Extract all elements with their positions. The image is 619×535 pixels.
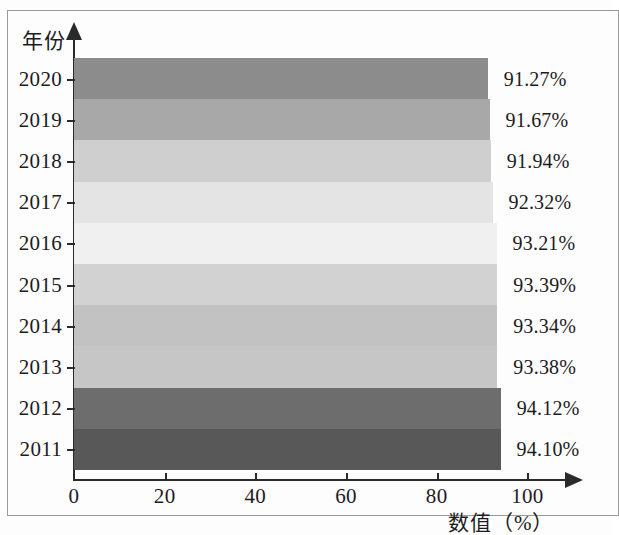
x-axis-tick-label-20: 20 <box>154 484 176 509</box>
y-axis-tick-label-2018: 2018 <box>0 149 62 174</box>
bar-value-label-2016: 93.21% <box>513 232 576 255</box>
x-axis-tick <box>346 473 348 480</box>
x-axis-line <box>73 479 567 481</box>
y-axis-tick-label-2011: 2011 <box>0 437 62 462</box>
x-axis-tick-label-40: 40 <box>245 484 267 509</box>
bar-2012 <box>74 388 501 429</box>
bar-row: 93.39% <box>74 264 550 305</box>
x-axis-tick-label-0: 0 <box>69 484 80 509</box>
x-axis-tick <box>437 473 439 480</box>
bar-2020 <box>74 58 488 99</box>
bar-row: 93.38% <box>74 346 550 387</box>
bar-row: 91.67% <box>74 99 550 140</box>
bar-value-label-2019: 91.67% <box>506 108 569 131</box>
y-axis-tick <box>67 161 75 163</box>
y-axis-tick <box>67 79 75 81</box>
bar-row: 94.12% <box>74 388 550 429</box>
bar-row: 91.94% <box>74 140 550 181</box>
bar-2011 <box>74 429 501 470</box>
y-axis-tick <box>67 449 75 451</box>
bar-value-label-2011: 94.10% <box>517 438 580 461</box>
y-axis-tick-label-2013: 2013 <box>0 355 62 380</box>
y-axis-tick <box>67 408 75 410</box>
bar-row: 92.32% <box>74 182 550 223</box>
y-axis-arrow-icon <box>66 22 82 40</box>
bar-value-label-2015: 93.39% <box>513 273 576 296</box>
y-axis-tick <box>67 243 75 245</box>
y-axis-tick-label-2015: 2015 <box>0 272 62 297</box>
y-axis-tick <box>67 285 75 287</box>
bar-row: 93.21% <box>74 223 550 264</box>
bar-value-label-2014: 93.34% <box>513 314 576 337</box>
y-axis-tick-label-2012: 2012 <box>0 396 62 421</box>
y-axis-tick-label-2014: 2014 <box>0 313 62 338</box>
bar-2019 <box>74 99 490 140</box>
bar-2015 <box>74 264 497 305</box>
bar-value-label-2018: 91.94% <box>507 149 570 172</box>
bar-value-label-2020: 91.27% <box>504 67 567 90</box>
y-axis-tick <box>67 367 75 369</box>
y-axis-tick-label-2020: 2020 <box>0 66 62 91</box>
y-axis-tick-label-2016: 2016 <box>0 231 62 256</box>
plot-area: 91.27%91.67%91.94%92.32%93.21%93.39%93.3… <box>74 58 550 470</box>
y-axis-tick-label-2017: 2017 <box>0 190 62 215</box>
bar-value-label-2013: 93.38% <box>513 355 576 378</box>
x-axis-tick-label-60: 60 <box>335 484 357 509</box>
y-axis-tick <box>67 120 75 122</box>
bar-row: 91.27% <box>74 58 550 99</box>
x-axis-tick <box>255 473 257 480</box>
x-axis-tick <box>527 473 529 480</box>
x-axis-title: 数值（%） <box>448 506 555 535</box>
x-axis-tick <box>165 473 167 480</box>
bar-value-label-2012: 94.12% <box>517 397 580 420</box>
bar-row: 94.10% <box>74 429 550 470</box>
bar-2018 <box>74 140 491 181</box>
bar-value-label-2017: 92.32% <box>509 191 572 214</box>
y-axis-tick <box>67 202 75 204</box>
y-axis-title: 年份 <box>22 24 66 54</box>
y-axis-tick <box>67 326 75 328</box>
bar-2013 <box>74 346 497 387</box>
x-axis-tick-label-80: 80 <box>426 484 448 509</box>
bar-2017 <box>74 182 493 223</box>
x-axis-arrow-icon <box>565 472 583 488</box>
y-axis-tick-label-2019: 2019 <box>0 107 62 132</box>
bar-2014 <box>74 305 497 346</box>
bar-2016 <box>74 223 497 264</box>
bar-row: 93.34% <box>74 305 550 346</box>
